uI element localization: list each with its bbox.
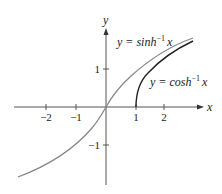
arcsinh-label: y = sinh−1x [116, 34, 173, 49]
y-tick-label: 1 [95, 63, 101, 75]
y-axis-label: y [102, 13, 109, 27]
x-axis-arrow-icon [197, 105, 204, 110]
x-tick-label: −1 [70, 111, 82, 123]
x-tick-label: 1 [133, 111, 139, 123]
x-tick-label: −2 [40, 111, 52, 123]
x-tick-label: 2 [161, 111, 167, 123]
y-axis-arrow-icon [104, 28, 109, 35]
x-axis-label: x [206, 100, 213, 114]
arccosh-label: y = cosh−1x [149, 74, 208, 89]
graph-figure: −2 −1 1 2 1 −1 x y y = sinh−1x y = cosh−… [0, 0, 222, 194]
y-tick-label: −1 [88, 139, 100, 151]
